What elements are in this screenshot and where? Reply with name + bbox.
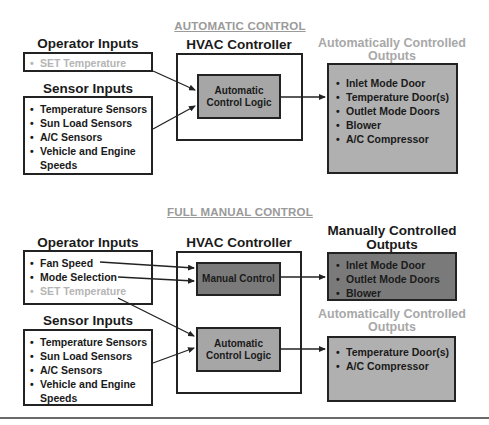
auto-outputs-box: Inlet Mode Door Temperature Door(s) Outl… [327,63,458,174]
manual-sensor-inputs-heading: Sensor Inputs [23,314,153,328]
sensor-vehicle-engine: Vehicle and Engine [28,377,151,391]
manual-auto-outputs-heading: Automatically ControlledOutputs [312,308,472,334]
manual-output-blower: Blower [334,286,455,300]
manual-sensor-inputs-box: Temperature Sensors Sun Load Sensors A/C… [23,329,153,406]
auto-outputs-heading: Automatically ControlledOutputs [312,37,472,63]
sensor-sun-load: Sun Load Sensors [28,349,151,363]
sensor-ac: A/C Sensors [28,130,151,144]
sensor-temperature: Temperature Sensors [28,102,151,116]
auto-hvac-controller-heading: HVAC Controller [176,38,302,52]
auto-operator-inputs-box: SET Temperature [23,52,153,72]
auto-control-logic-block: AutomaticControl Logic [197,74,281,119]
auto-sensor-inputs-box: Temperature Sensors Sun Load Sensors A/C… [23,96,153,175]
operator-input-mode-selection: Mode Selection [28,270,151,284]
auto-operator-input-set-temperature: SET Temperature [28,56,151,70]
auto-control-logic-label: AutomaticControl Logic [199,76,279,117]
sensor-temperature: Temperature Sensors [28,335,151,349]
manual-auto-outputs-box: Temperature Door(s) A/C Compressor [327,336,456,402]
auto-operator-inputs-heading: Operator Inputs [23,37,153,51]
manual-output-inlet-mode-door: Inlet Mode Door [334,258,455,272]
operator-input-set-temperature: SET Temperature [28,284,151,298]
auto-sensor-inputs-heading: Sensor Inputs [23,82,153,96]
manual-auto-control-logic-block: AutomaticControl Logic [196,327,281,372]
automatic-control-title: AUTOMATIC CONTROL [160,20,320,32]
sensor-sun-load: Sun Load Sensors [28,116,151,130]
output-outlet-mode-doors: Outlet Mode Doors [334,104,456,118]
manual-outputs-box: Inlet Mode Door Outlet Mode Doors Blower [327,252,457,301]
sensor-ac: A/C Sensors [28,363,151,377]
sensor-vehicle-engine-cont: Speeds [28,158,151,172]
sensor-vehicle-engine-cont: Speeds [28,391,151,405]
operator-input-fan-speed: Fan Speed [28,256,151,270]
manual-control-block: Manual Control [196,262,281,296]
manual-output-outlet-mode-doors: Outlet Mode Doors [334,272,455,286]
manual-control-title: FULL MANUAL CONTROL [150,206,330,218]
output-ac-compressor: A/C Compressor [334,132,456,146]
manual-hvac-controller-heading: HVAC Controller [176,236,302,250]
output-temperature-doors: Temperature Door(s) [334,90,456,104]
manual-operator-inputs-box: Fan Speed Mode Selection SET Temperature [23,250,153,305]
manual-auto-control-logic-label: AutomaticControl Logic [198,329,279,370]
output-inlet-mode-door: Inlet Mode Door [334,76,456,90]
bottom-divider [0,417,489,419]
auto-output-temperature-doors: Temperature Door(s) [334,345,454,359]
manual-control-label: Manual Control [198,264,279,294]
sensor-vehicle-engine: Vehicle and Engine [28,144,151,158]
auto-output-ac-compressor: A/C Compressor [334,359,454,373]
manual-operator-inputs-heading: Operator Inputs [23,236,153,250]
output-blower: Blower [334,118,456,132]
manual-outputs-heading: Manually ControlledOutputs [312,224,472,252]
